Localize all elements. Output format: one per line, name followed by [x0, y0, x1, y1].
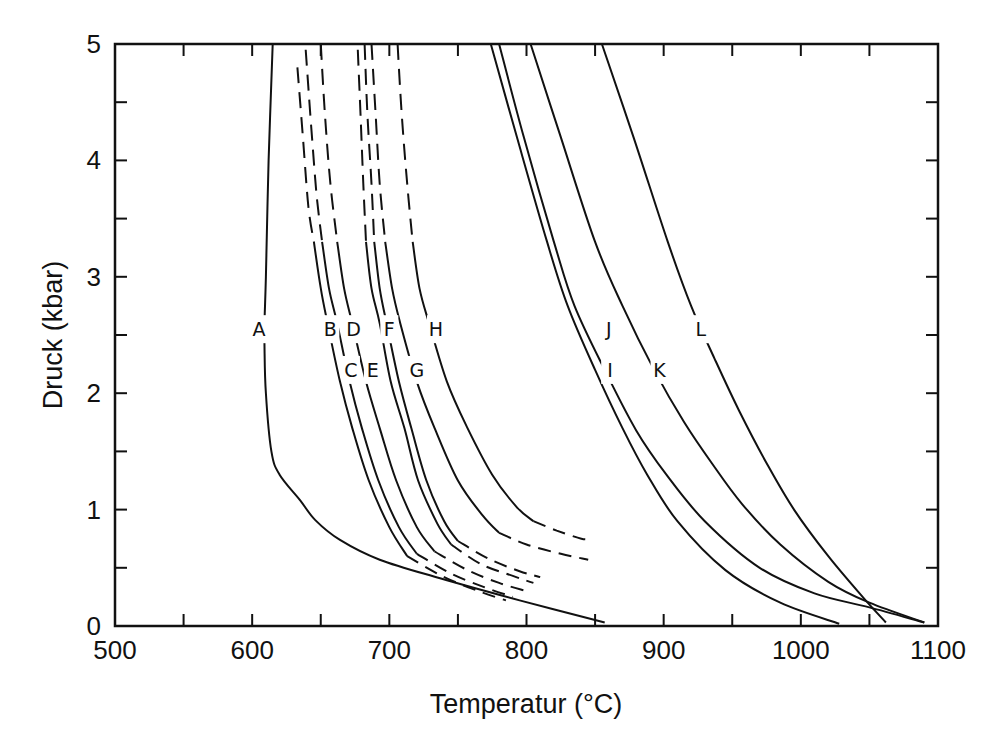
axis-tick-labels: 50060070080090010001100012345: [87, 29, 966, 665]
curve-dashed-tail: [407, 556, 506, 600]
y-tick-label: 5: [87, 29, 101, 59]
curve-label-g: G: [409, 359, 424, 381]
curve-solid-segment: [531, 44, 925, 623]
curve-l: [602, 44, 886, 623]
curves: [264, 44, 924, 624]
y-tick-label: 0: [87, 611, 101, 641]
curve-label-h: H: [429, 318, 443, 340]
curve-solid-segment: [413, 242, 534, 521]
curve-label-e: E: [367, 359, 379, 381]
curve-dashed-segment: [297, 67, 314, 242]
curve-solid-segment: [602, 44, 886, 623]
curve-label-l: L: [695, 318, 706, 340]
curve-dashed-segment: [372, 44, 386, 242]
chart-canvas: 50060070080090010001100012345 ABCDEFGHIJ…: [0, 0, 986, 748]
curve-i: [491, 44, 839, 624]
curve-k: [531, 44, 925, 623]
curve-labels: ABCDEFGHIJKL: [250, 315, 710, 384]
y-tick-label: 1: [87, 495, 101, 525]
curve-label-k: K: [653, 359, 666, 381]
curve-dashed-segment: [321, 44, 337, 242]
x-tick-label: 700: [368, 635, 411, 665]
curve-dashed-segment: [358, 50, 366, 242]
y-tick-label: 4: [87, 145, 101, 175]
curve-label-j: J: [605, 318, 612, 340]
y-axis-title: Druck (kbar): [38, 261, 68, 410]
y-tick-label: 3: [87, 262, 101, 292]
curve-dashed-tail: [458, 541, 540, 577]
x-tick-label: 800: [505, 635, 548, 665]
curve-label-i: I: [607, 359, 613, 381]
curve-label-a: A: [253, 318, 266, 340]
x-tick-label: 900: [642, 635, 685, 665]
x-tick-label: 1100: [910, 635, 966, 665]
curve-dashed-segment: [306, 50, 322, 242]
curve-dashed-tail: [451, 545, 533, 583]
x-axis-title: Temperatur (°C): [430, 689, 622, 719]
curve-solid-segment: [385, 242, 499, 533]
curve-solid-segment: [491, 44, 839, 624]
curve-j: [499, 44, 924, 623]
x-tick-label: 1000: [772, 635, 830, 665]
curve-label-d: D: [346, 318, 361, 340]
curve-label-c: C: [344, 359, 357, 381]
curve-label-b: B: [324, 318, 337, 340]
curve-solid-segment: [374, 242, 458, 541]
curve-dashed-segment: [398, 44, 413, 242]
curve-solid-segment: [499, 44, 924, 623]
x-tick-label: 600: [230, 635, 273, 665]
y-tick-label: 2: [87, 378, 101, 408]
curve-label-f: F: [384, 318, 395, 340]
curve-dashed-tail: [533, 521, 591, 539]
